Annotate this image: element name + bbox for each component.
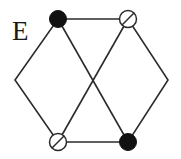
figure-label: E [12, 16, 29, 46]
vertex-marker-bottom-left-slashed [50, 134, 67, 151]
vertex-marker-top-right-slashed [120, 11, 137, 28]
hexagon-diagram-svg: E [0, 0, 181, 159]
vertex-marker-bottom-right-filled [120, 134, 137, 151]
vertex-marker-top-left-filled [50, 11, 67, 28]
hexagon-figure: E [0, 0, 181, 159]
hexagon-outline [15, 19, 168, 142]
